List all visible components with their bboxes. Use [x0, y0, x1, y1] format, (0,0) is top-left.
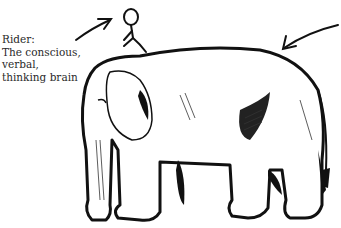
rider-stick-figure-icon — [124, 9, 146, 52]
arrow-to-rider-icon — [76, 19, 111, 40]
rider-elephant-illustration: Rider: The conscious, verbal, thinking b… — [0, 0, 341, 228]
illustration-canvas — [0, 0, 341, 228]
arrow-to-elephant-icon — [283, 25, 338, 49]
elephant-icon — [82, 48, 330, 220]
